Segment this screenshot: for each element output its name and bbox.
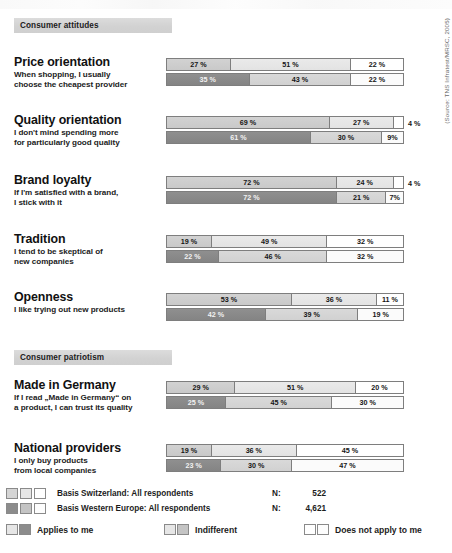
- bar-western-europe: 42 %39 %19 %: [166, 308, 404, 321]
- row-label: Price orientationWhen shopping, I usuall…: [14, 55, 166, 89]
- bar-wrapper: 25 %45 %30 %: [166, 396, 452, 411]
- chart-page: (Source: TNS Infratest/MRSC, 2005) Consu…: [0, 0, 452, 553]
- bar-segment-indifferent: 43 %: [250, 74, 351, 85]
- bar-western-europe: 72 %21 %7%: [166, 191, 404, 204]
- chart-row: Made in GermanyIf I read „Made in German…: [0, 378, 452, 412]
- bar-western-europe: 61 %30 %9%: [166, 131, 404, 144]
- n-row-western-europe: N: 4,621: [272, 502, 452, 515]
- row-bars: 72 %24 %4 %72 %21 %7%: [166, 173, 452, 206]
- swatch-applies-dark: [19, 524, 31, 535]
- chart-row: Quality orientationI don't mind spending…: [0, 113, 452, 147]
- swatch-indifferent-a: [20, 488, 32, 499]
- bar-wrapper: 42 %39 %19 %: [166, 308, 452, 323]
- bar-segment-indifferent: 51 %: [235, 382, 355, 393]
- bar-segment-not-apply: 32 %: [327, 236, 403, 247]
- n-row-switzerland: N: 522: [272, 487, 452, 500]
- scan-artifact: [0, 0, 452, 9]
- section-header-label: Consumer patriotism: [20, 353, 104, 362]
- swatch-not-apply-dark: [317, 524, 329, 535]
- swatch-indifferent-b: [20, 503, 32, 514]
- swatch-applies-b: [6, 503, 18, 514]
- row-label: Quality orientationI don't mind spending…: [14, 113, 166, 147]
- bar-western-europe: 23 %30 %47 %: [166, 459, 404, 472]
- section-header-label: Consumer attitudes: [20, 21, 99, 30]
- row-title: Brand loyalty: [14, 174, 166, 187]
- legend-key-applies: Applies to me: [6, 524, 164, 535]
- bar-segment-applies: 69 %: [167, 117, 330, 128]
- bar-segment-applies: 25 %: [167, 397, 226, 408]
- row-label: OpennessI like trying out new products: [14, 290, 166, 315]
- row-subtitle-line: from local companies: [14, 466, 166, 476]
- row-subtitle-line: When shopping, I usually: [14, 70, 166, 80]
- bar-segment-indifferent: 49 %: [212, 236, 328, 247]
- bar-segment-applies: 72 %: [167, 177, 337, 188]
- chart-row: Price orientationWhen shopping, I usuall…: [0, 55, 452, 89]
- row-subtitle: When shopping, I usuallychoose the cheap…: [14, 70, 166, 89]
- bar-wrapper: 29 %51 %20 %: [166, 381, 452, 396]
- bar-segment-indifferent: 30 %: [221, 460, 292, 471]
- chart-row: TraditionI tend to be skeptical ofnew co…: [0, 232, 452, 266]
- row-bars: 29 %51 %20 %25 %45 %30 %: [166, 378, 452, 411]
- row-label: TraditionI tend to be skeptical ofnew co…: [14, 232, 166, 266]
- bar-switzerland: 27 %51 %22 %: [166, 58, 404, 71]
- row-bars: 19 %36 %45 %23 %30 %47 %: [166, 441, 452, 474]
- row-subtitle: I tend to be skeptical ofnew companies: [14, 247, 166, 266]
- row-subtitle: I like trying out new products: [14, 305, 166, 315]
- bar-wrapper: 27 %51 %22 %: [166, 58, 452, 73]
- swatch-not-apply-light: [304, 524, 316, 535]
- bar-segment-applies: 19 %: [167, 445, 212, 456]
- bar-switzerland: 72 %24 %: [166, 176, 404, 189]
- bar-segment-not-apply: 30 %: [332, 397, 403, 408]
- swatch-applies-a: [6, 488, 18, 499]
- chart-row: OpennessI like trying out new products53…: [0, 290, 452, 323]
- bar-segment-applies: 35 %: [167, 74, 250, 85]
- bar-segment-indifferent: 21 %: [337, 192, 387, 203]
- legend-key-label: Indifferent: [195, 525, 237, 535]
- bar-segment-not-apply: 22 %: [351, 74, 403, 85]
- basis-rows: Basis Switzerland: All respondents Basis…: [6, 487, 268, 517]
- bar-segment-indifferent: 46 %: [219, 251, 328, 262]
- bar-segment-indifferent: 36 %: [212, 445, 297, 456]
- bar-segment-not-apply: 19 %: [358, 309, 403, 320]
- bar-segment-applies: 61 %: [167, 132, 311, 143]
- bar-segment-not-apply: 7%: [386, 192, 403, 203]
- bar-segment-not-apply: [394, 117, 403, 128]
- bar-wrapper: 69 %27 %4 %: [166, 116, 452, 131]
- bar-outside-value: 4 %: [408, 117, 420, 130]
- row-title: National providers: [14, 442, 166, 455]
- bar-segment-not-apply: 20 %: [356, 382, 403, 393]
- legend-key-indifferent: Indifferent: [164, 524, 304, 535]
- bar-western-europe: 22 %46 %32 %: [166, 250, 404, 263]
- legend-key-label: Applies to me: [37, 525, 93, 535]
- row-subtitle-line: If I read „Made in Germany“ on: [14, 393, 166, 403]
- row-title: Openness: [14, 291, 166, 304]
- row-subtitle-line: If I'm satisfied with a brand,: [14, 188, 166, 198]
- basis-block: Basis Switzerland: All respondents Basis…: [6, 487, 452, 517]
- bar-segment-indifferent: 36 %: [292, 294, 377, 305]
- bar-segment-applies: 53 %: [167, 294, 292, 305]
- bar-segment-applies: 29 %: [167, 382, 235, 393]
- n-label: N:: [272, 504, 286, 513]
- row-title: Quality orientation: [14, 114, 166, 127]
- n-value: 4,621: [286, 504, 326, 513]
- bar-switzerland: 29 %51 %20 %: [166, 381, 404, 394]
- bar-switzerland: 53 %36 %11 %: [166, 293, 404, 306]
- bar-segment-not-apply: 47 %: [292, 460, 403, 471]
- row-bars: 27 %51 %22 %35 %43 %22 %: [166, 55, 452, 88]
- section-header: Consumer attitudes: [14, 18, 172, 33]
- row-subtitle-line: I don't mind spending more: [14, 128, 166, 138]
- n-label: N:: [272, 489, 286, 498]
- row-label: Brand loyaltyIf I'm satisfied with a bra…: [14, 173, 166, 207]
- bar-segment-not-apply: 45 %: [297, 445, 403, 456]
- bar-segment-applies: 72 %: [167, 192, 337, 203]
- row-subtitle-line: I only buy products: [14, 456, 166, 466]
- bar-segment-indifferent: 30 %: [311, 132, 382, 143]
- swatch-indifferent-light: [164, 524, 176, 535]
- bar-segment-not-apply: 22 %: [351, 59, 403, 70]
- bar-wrapper: 61 %30 %9%: [166, 131, 452, 146]
- bar-outside-value: 4 %: [408, 177, 420, 190]
- bar-wrapper: 72 %21 %7%: [166, 191, 452, 206]
- bar-segment-not-apply: [394, 177, 403, 188]
- row-label: National providersI only buy productsfro…: [14, 441, 166, 475]
- row-subtitle-line: I stick with it: [14, 198, 166, 208]
